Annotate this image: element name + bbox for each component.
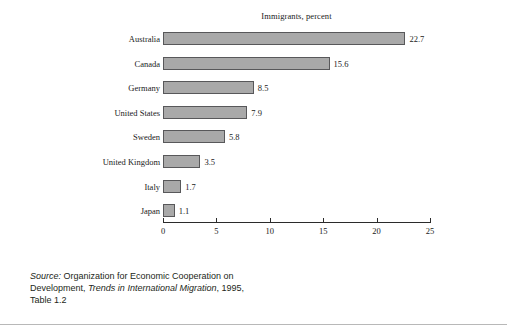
figure-container: Immigrants, percent Australia22.7Canada1… (0, 0, 507, 333)
value-label-japan: 1.1 (179, 204, 190, 218)
value-label-germany: 8.5 (258, 81, 269, 95)
bar-row: Japan1.1 (0, 204, 507, 218)
bar-sweden (163, 130, 225, 143)
bar-row: Canada15.6 (0, 57, 507, 71)
x-axis-tick (377, 218, 378, 223)
x-axis-tick-label: 0 (151, 226, 175, 236)
bar-row: United Kingdom3.5 (0, 155, 507, 169)
category-label-sweden: Sweden (133, 130, 160, 144)
bottom-divider (0, 324, 507, 325)
value-label-united-states: 7.9 (251, 106, 262, 120)
source-line2-post: , 1995, (216, 283, 244, 293)
bar-row: Italy1.7 (0, 180, 507, 194)
bar-row: United States7.9 (0, 106, 507, 120)
category-label-united-states: United States (114, 106, 160, 120)
source-note-line-2: Development, Trends in International Mig… (30, 282, 330, 294)
source-line1-text: Organization for Economic Cooperation on (61, 271, 234, 281)
x-axis-tick (216, 218, 217, 223)
x-axis-tick-label: 5 (204, 226, 228, 236)
source-label: Source: (30, 271, 61, 281)
category-label-japan: Japan (141, 204, 160, 218)
value-label-sweden: 5.8 (229, 130, 240, 144)
bar-australia (163, 32, 405, 45)
x-axis-tick-label: 10 (258, 226, 282, 236)
source-line2-pre: Development, (30, 283, 88, 293)
bar-row: Sweden5.8 (0, 130, 507, 144)
bar-japan (163, 204, 175, 217)
bar-united-kingdom (163, 155, 200, 168)
value-label-canada: 15.6 (334, 57, 349, 71)
category-label-canada: Canada (135, 57, 161, 71)
bar-chart-plot-area: Australia22.7Canada15.6Germany8.5United … (0, 0, 507, 250)
x-axis-tick (323, 218, 324, 223)
source-note-line-1: Source: Organization for Economic Cooper… (30, 270, 330, 282)
bar-united-states (163, 106, 247, 119)
bar-italy (163, 180, 181, 193)
category-label-united-kingdom: United Kingdom (103, 155, 160, 169)
source-note-line-3: Table 1.2 (30, 294, 330, 306)
source-note: Source: Organization for Economic Cooper… (30, 270, 330, 307)
bar-row: Australia22.7 (0, 32, 507, 46)
x-axis-line (163, 222, 430, 223)
source-publication-title: Trends in International Migration (88, 283, 216, 293)
value-label-united-kingdom: 3.5 (204, 155, 215, 169)
category-label-australia: Australia (129, 32, 160, 46)
x-axis-tick-label: 15 (311, 226, 335, 236)
bar-germany (163, 81, 254, 94)
x-axis-tick (270, 218, 271, 223)
x-axis-tick (430, 218, 431, 223)
x-axis-tick (163, 218, 164, 223)
category-label-italy: Italy (144, 180, 160, 194)
bar-row: Germany8.5 (0, 81, 507, 95)
value-label-australia: 22.7 (409, 32, 424, 46)
category-label-germany: Germany (128, 81, 160, 95)
x-axis-tick-label: 25 (418, 226, 442, 236)
x-axis-tick-label: 20 (365, 226, 389, 236)
bar-canada (163, 57, 330, 70)
value-label-italy: 1.7 (185, 180, 196, 194)
